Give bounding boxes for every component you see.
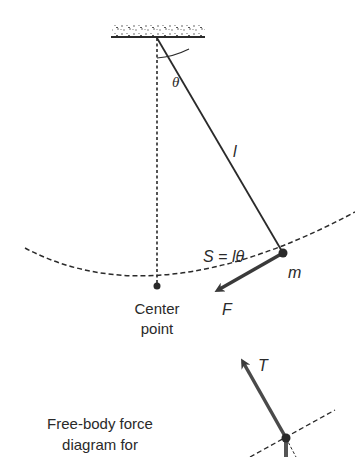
fbd-tangent-line bbox=[250, 410, 335, 457]
center-point-label-line2: point bbox=[141, 320, 174, 337]
swing-arc bbox=[25, 212, 355, 276]
fbd-caption-line1: Free-body force bbox=[47, 415, 153, 432]
angle-label: θ bbox=[172, 74, 180, 90]
force-label: F bbox=[222, 301, 233, 318]
center-point-dot bbox=[154, 283, 161, 290]
mass-bob bbox=[279, 249, 288, 258]
ceiling-support bbox=[111, 23, 205, 37]
fbd-mass-dot bbox=[282, 434, 291, 443]
free-body-diagram: T Free-body force diagram for bbox=[47, 357, 335, 457]
length-label: l bbox=[233, 143, 237, 160]
arc-length-label: S = lθ bbox=[203, 248, 244, 265]
mass-label: m bbox=[288, 264, 301, 281]
fbd-caption-line2: diagram for bbox=[62, 436, 138, 453]
tension-label: T bbox=[258, 357, 269, 374]
angle-arc bbox=[157, 49, 189, 58]
pendulum-rod bbox=[157, 38, 283, 253]
pendulum-diagram: θ l S = lθ m F Center point T Free-body … bbox=[0, 0, 355, 457]
center-point-label-line1: Center bbox=[134, 300, 179, 317]
ceiling-hatch bbox=[112, 23, 205, 36]
